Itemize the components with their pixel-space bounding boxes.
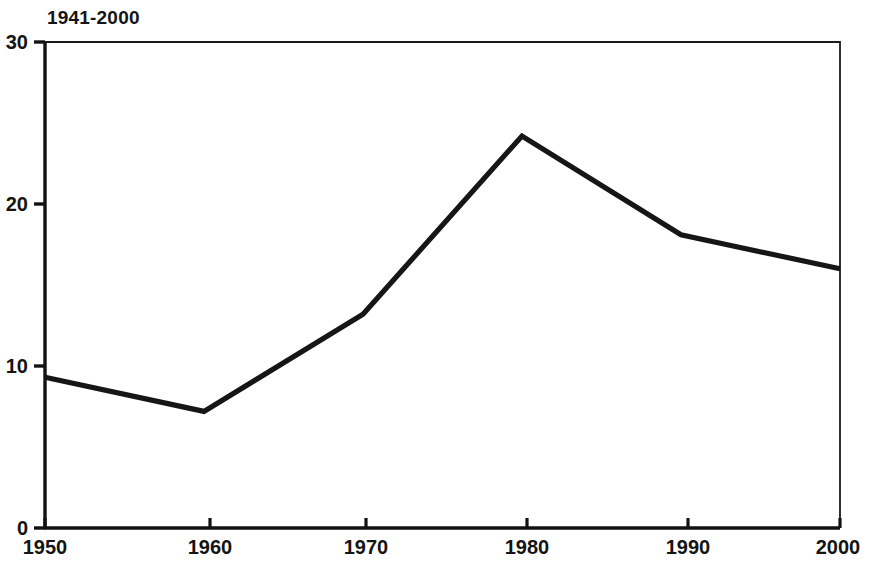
data-series-line bbox=[45, 136, 840, 411]
x-tick-label-1990: 1990 bbox=[666, 536, 711, 559]
y-tick-label-30: 30 bbox=[0, 31, 28, 54]
x-tick-label-1980: 1980 bbox=[505, 536, 550, 559]
line-chart: 1941-2000 30 20 10 0 1950 1 bbox=[0, 0, 872, 576]
x-tick-label-1950: 1950 bbox=[23, 536, 68, 559]
y-tick-label-20: 20 bbox=[0, 193, 28, 216]
plot-frame-top-right bbox=[44, 42, 840, 528]
x-tick-label-1970: 1970 bbox=[344, 536, 389, 559]
y-tick-label-10: 10 bbox=[0, 355, 28, 378]
x-tick-label-2000: 2000 bbox=[816, 536, 861, 559]
x-tick-label-1960: 1960 bbox=[188, 536, 233, 559]
plot-area bbox=[0, 0, 872, 576]
